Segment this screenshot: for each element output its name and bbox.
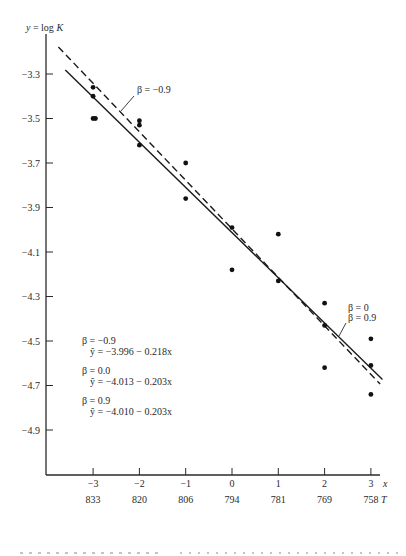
data-point xyxy=(322,365,327,370)
data-point xyxy=(230,225,235,230)
legend: β = −0.9 ŷ = −3.996 − 0.218x β = 0.0 ŷ =… xyxy=(82,335,172,417)
x-tick-label: −2 xyxy=(134,478,145,489)
x2-tick-label: 794 xyxy=(225,494,240,505)
data-point xyxy=(91,85,96,90)
x-tick-label: 1 xyxy=(276,478,281,489)
x2-tick-label: 833 xyxy=(86,494,101,505)
legend-beta-3: β = 0.9 xyxy=(82,395,110,406)
regression-chart: y = log K −3.3−3.5−3.7−3.9−4.1−4.3−4.5−4… xyxy=(0,0,406,556)
x2-tick-label: 781 xyxy=(271,494,286,505)
legend-equation-2: ŷ = −4.013 − 0.203x xyxy=(90,376,172,387)
solid-annotation-label-2: β = 0.9 xyxy=(348,312,376,323)
x-tick-label: 3 xyxy=(368,478,373,489)
x2-tick-label: 758 xyxy=(363,494,378,505)
y-tick-label: −3.9 xyxy=(22,202,40,213)
legend-equation-3: ŷ = −4.010 − 0.203x xyxy=(90,406,172,417)
x-tick-label: −3 xyxy=(88,478,99,489)
dashed-annotation-arrow xyxy=(121,96,134,111)
caption-cut xyxy=(20,551,400,556)
y-tick-label: −3.7 xyxy=(22,158,40,169)
y-tick-label: −4.1 xyxy=(22,247,40,258)
fit-line-solid xyxy=(65,70,382,379)
data-point xyxy=(183,196,188,201)
y-axis-label: y = log K xyxy=(25,22,64,33)
x-ticks: −3833−2820−18060794178127693758 xyxy=(86,468,379,505)
x-tick-label: −1 xyxy=(180,478,191,489)
y-ticks: −3.3−3.5−3.7−3.9−4.1−4.3−4.5−4.7−4.9 xyxy=(22,69,53,436)
x2-tick-label: 820 xyxy=(132,494,147,505)
fit-line-dashed xyxy=(58,47,380,384)
y-tick-label: −4.7 xyxy=(22,380,40,391)
data-point xyxy=(276,232,281,237)
data-point xyxy=(230,267,235,272)
x2-tick-label: 769 xyxy=(317,494,332,505)
y-tick-label: −3.3 xyxy=(22,69,40,80)
y-tick-label: −4.5 xyxy=(22,336,40,347)
data-point xyxy=(93,116,98,121)
legend-beta-1: β = −0.9 xyxy=(82,335,116,346)
dashed-annotation-label: β = −0.9 xyxy=(137,84,171,95)
data-point xyxy=(91,94,96,99)
solid-annotation-arrow xyxy=(339,323,346,336)
data-point xyxy=(137,118,142,123)
x2-axis-label: T xyxy=(381,494,388,505)
x-tick-label: 0 xyxy=(230,478,235,489)
data-point xyxy=(276,279,281,284)
data-point xyxy=(369,336,374,341)
legend-equation-1: ŷ = −3.996 − 0.218x xyxy=(90,346,172,357)
data-point xyxy=(183,161,188,166)
y-tick-label: −4.3 xyxy=(22,291,40,302)
y-tick-label: −4.9 xyxy=(22,425,40,436)
x-axis-label: x xyxy=(382,478,388,489)
data-point xyxy=(137,143,142,148)
data-point xyxy=(137,123,142,128)
data-point xyxy=(322,323,327,328)
data-point xyxy=(322,301,327,306)
data-point xyxy=(369,363,374,368)
x-tick-label: 2 xyxy=(322,478,327,489)
x2-tick-label: 806 xyxy=(178,494,193,505)
y-tick-label: −3.5 xyxy=(22,113,40,124)
legend-beta-2: β = 0.0 xyxy=(82,365,110,376)
data-point xyxy=(369,392,374,397)
fit-lines xyxy=(58,47,382,384)
